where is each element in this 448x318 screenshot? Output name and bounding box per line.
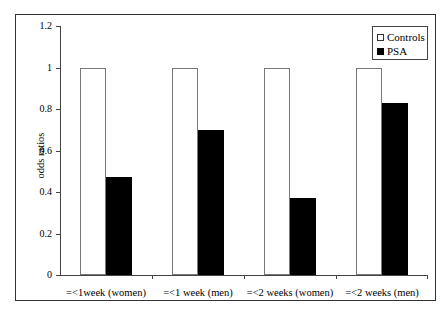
y-tick-label: 0.6 (20, 146, 52, 156)
x-tick-label: =<2 weeks (women) (244, 287, 336, 298)
y-tick-label: 0.2 (20, 229, 52, 239)
psa-swatch-icon (377, 48, 384, 55)
bar-controls (356, 68, 382, 276)
y-tick-label: 0.4 (20, 187, 52, 197)
x-tick-label: =<1week (women) (60, 287, 152, 298)
y-axis (60, 26, 61, 275)
legend-item-controls: Controls (377, 31, 425, 43)
x-tick (152, 275, 153, 279)
bar-psa (382, 103, 408, 275)
legend-label-psa: PSA (387, 45, 407, 57)
x-tick (427, 275, 428, 279)
bar-controls (80, 68, 106, 276)
y-axis-title: odds ratios (35, 126, 46, 186)
y-tick-label: 0.8 (20, 104, 52, 114)
x-tick-label: =<1 week (men) (152, 287, 244, 298)
x-tick (336, 275, 337, 279)
bar-controls (172, 68, 198, 276)
x-tick-label: =<2 weeks (men) (336, 287, 428, 298)
bar-psa (106, 177, 132, 275)
bar-psa (290, 198, 316, 275)
y-tick-label: 0 (20, 270, 52, 280)
legend-label-controls: Controls (387, 31, 425, 43)
x-tick (244, 275, 245, 279)
y-tick-label: 1.2 (20, 21, 52, 31)
legend-item-psa: PSA (377, 45, 407, 57)
controls-swatch-icon (377, 34, 384, 41)
bar-controls (264, 68, 290, 276)
bar-psa (198, 130, 224, 275)
legend: Controls PSA (372, 26, 428, 60)
y-tick-label: 1 (20, 63, 52, 73)
